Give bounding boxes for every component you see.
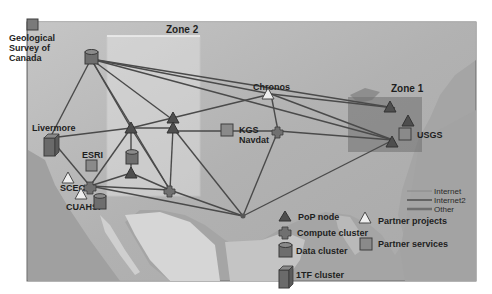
navdat-label: Navdat [239,135,269,145]
kgs-label: KGS [239,125,259,135]
legend-pop-node: PoP node [298,212,339,222]
cylinder-icon [279,243,292,258]
zone-1-label: Zone 1 [391,83,424,94]
geological-survey-node[interactable] [27,19,38,30]
livermore-node[interactable] [44,134,59,156]
geological-survey-label-3: Canada [9,53,43,63]
legend-other: Other [434,205,454,214]
legend-1tf-cluster: 1TF cluster [296,270,345,280]
network-map-figure: Zone 2 Zone 1 [0,0,492,294]
data-cluster-sw[interactable] [94,194,106,209]
legend-partner-services: Partner services [378,239,448,249]
esri-node[interactable] [86,160,97,171]
data-cluster-zone2[interactable] [126,150,138,164]
chronos-label: Chronos [253,82,290,92]
gulf-node[interactable] [241,214,246,219]
legend-internet: Internet [434,187,462,196]
esri-label: ESRI [82,150,103,160]
usgs-label: USGS [417,130,443,140]
livermore-label: Livermore [32,123,76,133]
geological-survey-label-2: Survey of [9,43,51,53]
kgs-navdat-node[interactable] [221,124,233,136]
legend-internet2: Internet2 [434,196,466,205]
legend-compute-cluster: Compute cluster [297,228,369,238]
legend-partner-projects: Partner projects [378,216,447,226]
geological-survey-label-1: Geological [9,33,55,43]
legend-data-cluster: Data cluster [296,246,348,256]
square-icon [360,238,372,250]
data-cluster-nw[interactable] [85,50,98,65]
zone-2-label: Zone 2 [166,24,199,35]
box-3d-icon [279,266,293,288]
usgs-node[interactable] [399,128,411,140]
